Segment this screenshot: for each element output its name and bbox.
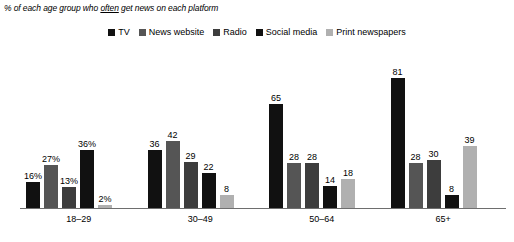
bar-group-bars: 6528281418 [263,64,385,208]
bar-item[interactable]: 28 [287,64,301,208]
x-axis-group-label: 18–29 [20,214,142,224]
x-axis-group-label-text: 65+ [436,214,451,224]
bar-item[interactable]: 18 [341,64,355,208]
bar-item[interactable]: 36 [148,64,162,208]
legend-item-label: TV [118,28,130,37]
legend-item[interactable]: Print newspapers [326,28,406,37]
bar-rect[interactable] [202,173,216,208]
bar-rect[interactable] [287,163,301,208]
chart-title-emphasis: often [100,3,118,13]
bar-value-label: 8 [224,184,229,194]
bar-rect[interactable] [463,146,477,208]
legend-item-label: Print newspapers [336,28,406,37]
bar-rect[interactable] [409,163,423,208]
chart-legend: TVNews websiteRadioSocial mediaPrint new… [0,28,514,37]
bar-value-label: 18 [343,168,353,178]
bar-item[interactable]: 29 [184,64,198,208]
legend-item-label: Radio [223,28,247,37]
x-axis-group-label-text: 30–49 [188,214,213,224]
bar-value-label: 13% [60,176,78,186]
bar-rect[interactable] [445,195,459,208]
bar-rect[interactable] [391,78,405,208]
bar-item[interactable]: 14 [323,64,337,208]
bar-item[interactable]: 8 [445,64,459,208]
legend-item[interactable]: TV [108,28,130,37]
chart-plot-area: 16%27%13%36%2%18–2936422922830–496528281… [0,44,514,242]
bar-value-label: 16% [24,171,42,181]
legend-swatch-icon [139,29,146,36]
bar-item[interactable]: 36% [80,64,94,208]
bar-group-bars: 16%27%13%36%2% [20,64,142,208]
x-axis-group-label-text: 50–64 [309,214,334,224]
bar-value-label: 29 [185,151,195,161]
bar-item[interactable]: 8 [220,64,234,208]
bar-rect[interactable] [341,179,355,208]
bar-rect[interactable] [80,150,94,208]
legend-item[interactable]: Social media [256,28,318,37]
chart-title-suffix: get news on each platform [119,3,218,13]
bar-value-label: 27% [42,154,60,164]
bar-rect[interactable] [323,186,337,208]
bar-value-label: 42 [167,130,177,140]
bar-item[interactable]: 16% [26,64,40,208]
bar-group: 652828141850–64 [263,44,385,229]
bar-group: 16%27%13%36%2%18–29 [20,44,142,229]
bar-rect[interactable] [427,160,441,208]
legend-item-label: Social media [266,28,318,37]
bar-rect[interactable] [269,104,283,208]
bar-value-label: 36 [149,139,159,149]
chart-title: % of each age group who often get news o… [4,3,218,13]
bar-item[interactable]: 28 [409,64,423,208]
bar-item[interactable]: 28 [305,64,319,208]
bar-value-label: 81 [392,67,402,77]
bar-group: 81283083965+ [385,44,507,229]
bar-group-bars: 812830839 [385,64,507,208]
bar-rect[interactable] [220,195,234,208]
bar-rect[interactable] [26,182,40,208]
legend-swatch-icon [326,29,333,36]
legend-swatch-icon [108,29,115,36]
bar-item[interactable]: 65 [269,64,283,208]
bar-group: 36422922830–49 [142,44,264,229]
x-axis-group-label: 50–64 [263,214,385,224]
legend-item[interactable]: Radio [213,28,247,37]
bar-rect[interactable] [184,162,198,208]
bar-value-label: 36% [78,139,96,149]
bar-value-label: 65 [271,93,281,103]
x-axis-baseline [20,208,506,209]
bar-item[interactable]: 39 [463,64,477,208]
bar-item[interactable]: 42 [166,64,180,208]
bar-rect[interactable] [305,163,319,208]
bar-item[interactable]: 27% [44,64,58,208]
bar-value-label: 28 [289,152,299,162]
x-axis-group-label: 30–49 [142,214,264,224]
bar-value-label: 28 [307,152,317,162]
bar-rect[interactable] [148,150,162,208]
legend-item[interactable]: News website [139,28,205,37]
bar-groups: 16%27%13%36%2%18–2936422922830–496528281… [20,44,506,229]
bar-value-label: 39 [464,135,474,145]
bar-rect[interactable] [166,141,180,208]
x-axis-group-label: 65+ [385,214,507,224]
legend-swatch-icon [213,29,220,36]
bar-value-label: 22 [203,162,213,172]
legend-swatch-icon [256,29,263,36]
bar-item[interactable]: 22 [202,64,216,208]
bar-rect[interactable] [62,187,76,208]
bar-item[interactable]: 30 [427,64,441,208]
x-axis-group-label-text: 18–29 [66,214,91,224]
legend-item-label: News website [149,28,205,37]
bar-value-label: 2% [98,194,111,204]
bar-rect[interactable] [44,165,58,208]
bar-group-bars: 364229228 [142,64,264,208]
bar-value-label: 8 [449,184,454,194]
bar-value-label: 30 [428,149,438,159]
bar-item[interactable]: 13% [62,64,76,208]
bar-item[interactable]: 2% [98,64,112,208]
bar-item[interactable]: 81 [391,64,405,208]
bar-value-label: 28 [410,152,420,162]
bar-value-label: 14 [325,175,335,185]
chart-title-prefix: % of each age group who [4,3,100,13]
